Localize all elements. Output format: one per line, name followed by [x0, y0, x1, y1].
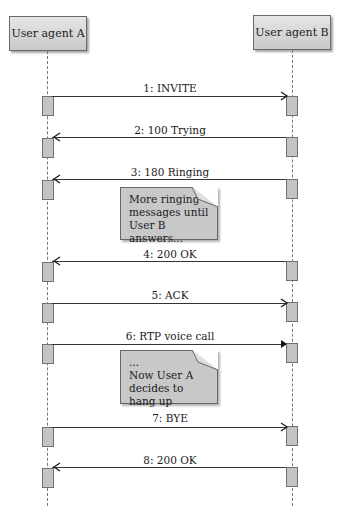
message-label: 7: BYE — [70, 412, 270, 424]
note-fold-icon — [192, 187, 218, 207]
filled-arrowhead-icon — [279, 339, 289, 349]
open-arrowhead-icon — [52, 462, 62, 472]
activation-b — [286, 467, 298, 487]
message-label: 6: RTP voice call — [70, 330, 270, 342]
activation-b — [286, 179, 298, 199]
note-line: decides to hang up — [129, 382, 209, 408]
message-arrow-180-ringing — [52, 179, 286, 180]
message-arrow-200-ok — [52, 261, 286, 262]
message-arrow-invite — [52, 96, 286, 97]
open-arrowhead-icon — [279, 422, 289, 432]
open-arrowhead-icon — [52, 174, 62, 184]
participant-label: User agent A — [11, 27, 84, 40]
activation-a — [42, 303, 54, 323]
message-label: 5: ACK — [70, 289, 270, 301]
activation-a — [42, 96, 54, 116]
note-line: messages until — [129, 206, 209, 219]
message-arrow-ack — [52, 303, 286, 304]
note-line: User B answers... — [129, 219, 209, 245]
message-label: 1: INVITE — [70, 82, 270, 94]
message-arrow-100-trying — [52, 137, 286, 138]
message-arrow-200-ok-final — [52, 467, 286, 468]
activation-b — [286, 261, 298, 281]
message-label: 3: 180 Ringing — [70, 166, 270, 178]
message-arrow-rtp-voice-call — [52, 344, 286, 345]
participant-user-agent-b: User agent B — [253, 15, 331, 50]
message-arrow-bye — [52, 427, 286, 428]
open-arrowhead-icon — [279, 91, 289, 101]
note-line: Now User A — [129, 369, 209, 382]
open-arrowhead-icon — [52, 132, 62, 142]
activation-a — [42, 427, 54, 447]
message-label: 2: 100 Trying — [70, 124, 270, 136]
note-fold-icon — [192, 350, 218, 370]
activation-b — [286, 137, 298, 157]
participant-label: User agent B — [255, 26, 328, 39]
open-arrowhead-icon — [279, 298, 289, 308]
note-more-ringing: More ringing messages until User B answe… — [120, 187, 218, 240]
participant-user-agent-a: User agent A — [9, 16, 87, 51]
activation-a — [42, 344, 54, 364]
open-arrowhead-icon — [52, 256, 62, 266]
message-label: 8: 200 OK — [70, 454, 270, 466]
note-hang-up: ... Now User A decides to hang up — [120, 350, 218, 404]
message-label: 4: 200 OK — [70, 248, 270, 260]
